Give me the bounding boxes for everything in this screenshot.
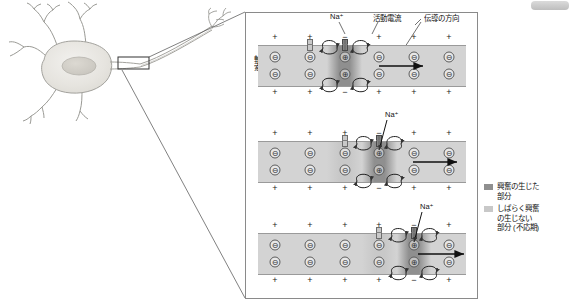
current-loop-top-right (353, 48, 368, 54)
legend-label-refractory-line1: しばらく興奮 (484, 204, 570, 214)
sodium-influx-label: Na⁺ (420, 202, 434, 211)
legend-swatch-excited (484, 184, 493, 190)
action-potential-propagation-figure: 軸索 Na⁺ 活動電流 伝導の方向 ++−+++++−+++⊖⊖⊕⊖⊖⊖⊖⊖⊕⊖… (0, 0, 573, 305)
current-loop-overlay (258, 28, 466, 100)
legend-swatch-refractory (484, 206, 493, 212)
current-loop-bottom-left (322, 85, 337, 92)
sodium-influx-arrow (258, 124, 466, 196)
sodium-influx-arrow (258, 216, 466, 288)
legend-item-refractory: しばらく興奮 の生じない 部分 (不応期) (484, 204, 570, 233)
legend-label-excited-line2: 部分 (484, 192, 570, 202)
legend-label-excited-line1: 興奮の生じた (484, 182, 570, 192)
current-loop-top-right (353, 41, 368, 49)
neuron-illustration (0, 0, 245, 305)
current-loop-bottom-left (322, 78, 337, 85)
stage-1: ++−+++++−+++⊖⊖⊕⊖⊖⊖⊖⊖⊕⊖⊖⊖ (258, 28, 466, 100)
current-loop-bottom-right (353, 85, 368, 92)
sodium-influx-label: Na⁺ (385, 110, 399, 119)
legend: 興奮の生じた 部分 しばらく興奮 の生じない 部分 (不応期) (484, 182, 570, 236)
current-loop-bottom-right (353, 78, 368, 85)
corner-tab-decoration (531, 1, 569, 10)
stage-2: +++−+++++−++⊖⊖⊖⊕⊖⊖⊖⊖⊖⊕⊖⊖Na⁺ (258, 124, 466, 196)
current-loop-top-left (322, 41, 337, 49)
current-loop-top-left (322, 48, 337, 54)
stage-3: ++++−+++++−+⊖⊖⊖⊖⊕⊖⊖⊖⊖⊖⊕⊖Na⁺ (258, 216, 466, 288)
neuron-svg (0, 0, 245, 305)
legend-item-excited: 興奮の生じた 部分 (484, 182, 570, 201)
legend-label-refractory-line2: の生じない (484, 214, 570, 224)
legend-label-refractory-line3: 部分 (不応期) (484, 223, 570, 233)
